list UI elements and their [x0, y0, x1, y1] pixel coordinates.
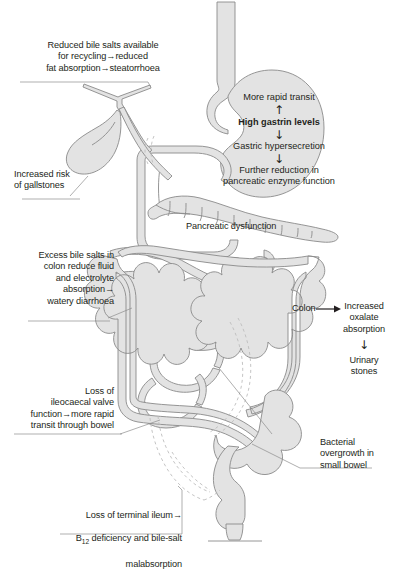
label-bile-salts-recycling: Reduced bile salts available for recycli… [8, 40, 198, 74]
label-gallstones: Increased risk of gallstones [14, 169, 114, 192]
colon-flow-arrow-down: ↓ [336, 339, 392, 351]
label-pancreatic-dysfunction: Pancreatic dysfunction [186, 221, 316, 232]
flow-step-pancreatic-enzyme-reduction: Further reduction in pancreatic enzyme f… [222, 165, 336, 187]
flow-step-high-gastrin-levels: High gastrin levels [220, 117, 338, 128]
label-terminal-ileum: Loss of terminal ileum→ B12 deficiency a… [52, 499, 182, 570]
terminal-ileum-line2-rest: deficiency and bile-salt [89, 533, 182, 543]
flow-arrow-up-1: ↑ [224, 104, 334, 116]
flow-arrow-down-1: ↓ [224, 129, 334, 141]
flow-step-more-rapid-transit: More rapid transit [224, 92, 334, 103]
b12-subscript: 12 [82, 538, 89, 545]
label-bacterial-overgrowth: Bacterial overgrowth in small bowel [320, 437, 392, 471]
flow-step-gastric-hypersecretion: Gastric hypersecretion [218, 141, 340, 152]
pancreas-shape [148, 196, 338, 242]
biliary-tree-shape [66, 84, 172, 180]
label-ileocaecal-valve: Loss of ileocaecal valve function→more r… [4, 386, 114, 432]
label-excess-bile-salts-colon: Excess bile salts in colon reduce fluid … [10, 250, 114, 307]
colon-flow-step-urinary-stones: Urinary stones [336, 355, 392, 378]
flow-arrow-down-2: ↓ [224, 153, 334, 165]
terminal-ileum-line1: Loss of terminal ileum→ [86, 510, 182, 520]
colon-flow-step-oxalate: Increased oxalate absorption [336, 301, 392, 335]
terminal-ileum-line3: malabsorption [126, 559, 182, 569]
